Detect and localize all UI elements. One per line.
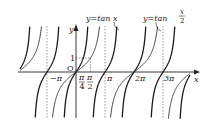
leader-tan-x (114, 22, 119, 30)
origin-label: O (67, 64, 74, 73)
tan-x-branch (180, 75, 190, 119)
label-tan-half-num: x (180, 8, 184, 16)
x-tick-pi-over-4-num: π (78, 73, 85, 82)
y-tick-1: 1 (70, 54, 75, 63)
tangent-graph: y x O 1 −π π 4 π 2 π 2π 3π y=tan x y=tan… (0, 0, 209, 126)
tan-x-branch (20, 27, 30, 69)
x-tick-pi-over-2-num: π (86, 73, 93, 82)
y-axis-label: y (68, 25, 74, 34)
label-tan-half-den: 2 (180, 17, 184, 25)
x-tick-pi-over-2-den: 2 (88, 82, 93, 91)
x-tick-2pi: 2π (134, 74, 146, 83)
label-tan-x: y=tan x (85, 14, 118, 23)
y-axis-arrow-icon (74, 24, 79, 31)
x-axis-arrow-icon (194, 70, 200, 75)
x-tick-pi: π (106, 74, 113, 83)
x-tick-3pi: 3π (164, 74, 175, 83)
x-tick-pi-over-4-den: 4 (80, 82, 85, 91)
x-axis-label: x (194, 75, 199, 84)
x-tick-neg-pi: −π (50, 74, 63, 83)
label-tan-half: y=tan (142, 14, 167, 23)
